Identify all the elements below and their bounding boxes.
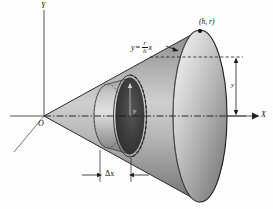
thickness-arrow-right: [129, 173, 134, 177]
shell-thickness-label: Δx: [105, 170, 114, 178]
diagram-canvas: [0, 0, 273, 209]
equation-y-term: y: [131, 43, 135, 52]
cone-volume-diagram: Y X O (h, r) y=rhx y y Δx: [0, 0, 273, 209]
equation-fraction: rh: [142, 40, 148, 56]
generating-line-equation: y=rhx: [131, 40, 152, 56]
equation-equals-sign: =: [136, 43, 141, 52]
endpoint-marker-dot: [198, 29, 202, 33]
equation-x-term: x: [149, 43, 153, 52]
equation-denominator: h: [142, 48, 148, 55]
radius-dimension-arrow-bottom: [234, 110, 238, 116]
shell-radius-label: y: [133, 108, 136, 115]
thickness-arrow-left: [97, 173, 102, 177]
x-axis-label: X: [261, 111, 266, 119]
origin-label: O: [38, 120, 44, 128]
y-axis-label: Y: [41, 2, 45, 10]
endpoint-coordinates-label: (h, r): [199, 18, 214, 26]
radius-dimension-arrow-top: [234, 58, 238, 64]
cone-radius-dimension-label: y: [231, 82, 234, 89]
x-axis-arrowhead: [252, 112, 260, 119]
